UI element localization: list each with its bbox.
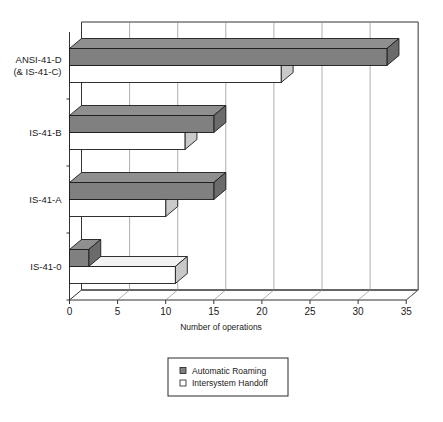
bar-automatic-roaming [70, 39, 399, 66]
bar-chart: 05101520253035 ANSI-41-D(& IS-41-C)IS-41… [0, 0, 443, 422]
bars-group [70, 39, 399, 284]
floor-connector [310, 290, 322, 300]
bar-front-face [70, 66, 282, 83]
category-label: IS-41-B [29, 127, 61, 138]
x-tick-labels: 05101520253035 [67, 306, 412, 317]
legend-swatch-intersystem-handoff [180, 380, 186, 386]
floor-connector [358, 290, 370, 300]
bar-automatic-roaming [70, 173, 226, 200]
bar-front-face [70, 133, 185, 150]
bar-front-face [70, 49, 387, 66]
legend-label-automatic-roaming: Automatic Roaming [192, 366, 266, 376]
bar-automatic-roaming [70, 106, 226, 133]
category-label: IS-41-A [29, 194, 62, 205]
category-label: ANSI-41-D [16, 54, 62, 65]
legend-swatch-automatic-roaming [180, 368, 186, 374]
floor-connector [214, 290, 226, 300]
floor-connector [406, 290, 418, 300]
floor-connector [262, 290, 274, 300]
x-tick-label: 5 [115, 306, 121, 317]
x-tick-label: 10 [160, 306, 172, 317]
bar-front-face [70, 116, 214, 133]
chart-container: 05101520253035 ANSI-41-D(& IS-41-C)IS-41… [0, 0, 443, 422]
category-label: IS-41-0 [30, 261, 61, 272]
bar-front-face [70, 183, 214, 200]
bar-top-face [70, 173, 226, 183]
legend-label-intersystem-handoff: Intersystem Handoff [192, 378, 269, 388]
x-tick-label: 20 [256, 306, 268, 317]
bar-front-face [70, 250, 89, 267]
bar-front-face [70, 200, 166, 217]
x-tick-label: 25 [304, 306, 316, 317]
x-tick-label: 30 [353, 306, 365, 317]
bar-top-face [70, 39, 399, 49]
legend-border [168, 358, 288, 396]
floor-connector [118, 290, 130, 300]
x-tick-label: 35 [401, 306, 413, 317]
x-axis-title: Number of operations [180, 322, 262, 332]
bar-top-face [70, 106, 226, 116]
x-tick-label: 0 [67, 306, 73, 317]
x-tick-label: 15 [208, 306, 220, 317]
bar-front-face [70, 267, 176, 284]
category-label-second-line: (& IS-41-C) [13, 66, 61, 77]
legend: Automatic Roaming Intersystem Handoff [168, 358, 288, 396]
category-labels: ANSI-41-D(& IS-41-C)IS-41-BIS-41-AIS-41-… [13, 54, 69, 301]
floor-connector [166, 290, 178, 300]
x-axis-ticks [70, 300, 407, 304]
